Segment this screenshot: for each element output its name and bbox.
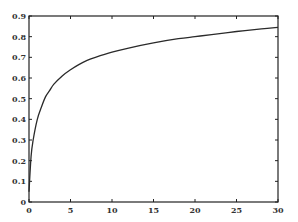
x-tick-label: 15 bbox=[148, 205, 159, 215]
line-chart: 05101520253000.10.20.30.40.50.60.70.80.9 bbox=[0, 0, 298, 222]
axis-ticks bbox=[29, 16, 278, 202]
x-tick-label: 10 bbox=[106, 205, 118, 215]
y-tick-label: 0.9 bbox=[12, 11, 26, 21]
y-tick-label: 0.8 bbox=[12, 32, 26, 42]
x-tick-label: 0 bbox=[26, 205, 32, 215]
y-tick-label: 0.7 bbox=[12, 52, 26, 62]
y-tick-label: 0.1 bbox=[12, 176, 26, 186]
y-tick-label: 0.2 bbox=[12, 156, 26, 166]
y-tick-label: 0.3 bbox=[12, 135, 26, 145]
plot-frame bbox=[29, 16, 278, 202]
x-tick-label: 20 bbox=[189, 205, 201, 215]
y-tick-label: 0.6 bbox=[12, 73, 26, 83]
x-tick-label: 5 bbox=[68, 205, 74, 215]
y-tick-label: 0 bbox=[20, 197, 26, 207]
axis-tick-labels: 05101520253000.10.20.30.40.50.60.70.80.9 bbox=[12, 11, 284, 215]
y-tick-label: 0.4 bbox=[12, 114, 26, 124]
x-tick-label: 25 bbox=[231, 205, 242, 215]
data-series-curve bbox=[29, 27, 278, 191]
y-tick-label: 0.5 bbox=[12, 94, 26, 104]
x-tick-label: 30 bbox=[272, 205, 284, 215]
